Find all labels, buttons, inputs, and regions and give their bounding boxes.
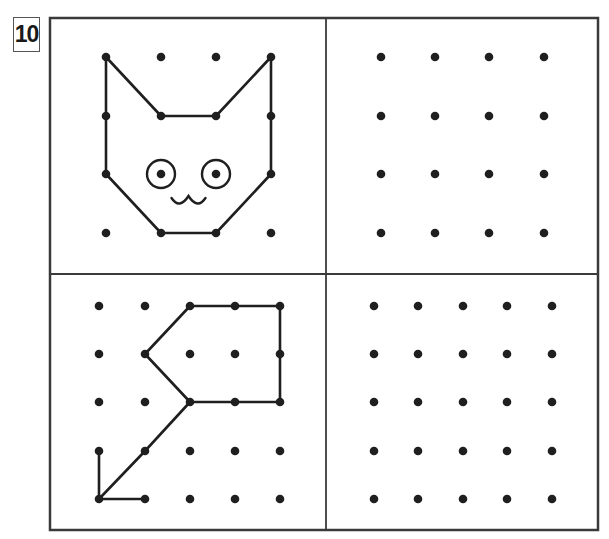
grid-dot [157,53,166,62]
grid-dot[interactable] [370,350,379,359]
grid-dot [141,302,150,311]
grid-dot [231,495,240,504]
grid-dot[interactable] [540,112,549,121]
figure-outline [106,57,271,233]
grid-dot[interactable] [540,170,549,179]
grid-dot [186,398,195,407]
grid-dot[interactable] [414,398,423,407]
grid-dot [276,398,285,407]
grid-dot [186,447,195,456]
panel-top-left-cat-example [102,53,276,238]
grid-dot [276,302,285,311]
grid-dot[interactable] [503,398,512,407]
grid-dot[interactable] [431,112,440,121]
grid-dot[interactable] [431,170,440,179]
grid-dot [95,447,104,456]
grid-dot [157,112,166,121]
grid-dot [102,229,111,238]
dot-grid-worksheet [0,0,609,539]
grid-dot [95,495,104,504]
grid-dot[interactable] [459,302,468,311]
grid-dot[interactable] [485,229,494,238]
grid-dot[interactable] [548,398,557,407]
grid-dot[interactable] [503,302,512,311]
grid-dot[interactable] [414,447,423,456]
grid-dot[interactable] [459,398,468,407]
grid-dot [231,447,240,456]
grid-dot[interactable] [414,495,423,504]
grid-dot [141,447,150,456]
grid-dot[interactable] [540,229,549,238]
grid-dot [276,350,285,359]
grid-dot [212,229,221,238]
grid-dot [141,495,150,504]
grid-dot [157,229,166,238]
grid-dot [212,53,221,62]
grid-dot[interactable] [414,350,423,359]
grid-dot [102,112,111,121]
grid-dot [141,398,150,407]
grid-dot[interactable] [485,170,494,179]
grid-dot [102,53,111,62]
grid-dot [95,398,104,407]
grid-dot[interactable] [370,302,379,311]
grid-dot[interactable] [377,170,386,179]
grid-dot [267,112,276,121]
grid-dot[interactable] [548,447,557,456]
grid-dot[interactable] [377,53,386,62]
grid-dot [212,112,221,121]
panel-top-right-practice-grid[interactable] [377,53,549,238]
grid-dot[interactable] [459,350,468,359]
grid-dot [231,398,240,407]
grid-dot [157,170,166,179]
grid-dot[interactable] [459,447,468,456]
grid-dot [276,495,285,504]
grid-dot [267,170,276,179]
grid-dot [267,229,276,238]
grid-dot[interactable] [485,112,494,121]
panel-bottom-left-flag-example [95,302,285,504]
grid-dot[interactable] [377,112,386,121]
grid-dot[interactable] [377,229,386,238]
grid-dot[interactable] [485,53,494,62]
grid-dot [186,302,195,311]
grid-dot[interactable] [414,302,423,311]
grid-dot[interactable] [540,53,549,62]
grid-dot [95,350,104,359]
grid-dot [231,350,240,359]
grid-dot [267,53,276,62]
grid-dot[interactable] [503,495,512,504]
grid-dot[interactable] [503,447,512,456]
grid-dot[interactable] [370,495,379,504]
grid-dot[interactable] [503,350,512,359]
grid-dot [186,350,195,359]
grid-dot[interactable] [370,398,379,407]
panel-bottom-right-practice-grid[interactable] [370,302,557,504]
grid-dot[interactable] [548,302,557,311]
grid-dot[interactable] [548,495,557,504]
grid-dot[interactable] [548,350,557,359]
grid-dot [141,350,150,359]
grid-dot[interactable] [459,495,468,504]
grid-dot[interactable] [431,53,440,62]
grid-dot [231,302,240,311]
grid-dot [95,302,104,311]
grid-dot [186,495,195,504]
grid-dot[interactable] [431,229,440,238]
cat-mouth [172,196,206,204]
grid-dot [212,170,221,179]
grid-dot[interactable] [370,447,379,456]
grid-dot [102,170,111,179]
grid-dot [276,447,285,456]
